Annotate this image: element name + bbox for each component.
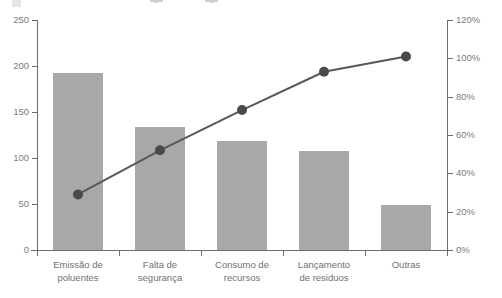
category-axis-tick (365, 251, 366, 256)
bottom-axis-line (31, 250, 453, 251)
bar (217, 141, 267, 250)
legend-item-cumulative (150, 0, 166, 2)
left-axis-tick-label: 200 (1, 61, 29, 71)
bar (135, 127, 185, 250)
bar (381, 205, 431, 250)
category-axis-tick (37, 251, 38, 256)
right-axis-tick (448, 250, 453, 251)
right-axis-tick (448, 58, 453, 59)
category-axis-labels: Emissão depoluentesFalta desegurançaCons… (37, 258, 447, 296)
right-axis-tick-label: 80% (456, 92, 475, 102)
right-axis-tick (448, 135, 453, 136)
category-axis-tick (119, 251, 120, 256)
line-marker-swatch-icon-2 (205, 0, 218, 2)
legend-item-frequency (12, 0, 24, 7)
right-axis-tick-label: 100% (456, 53, 480, 63)
right-axis-tick-label: 0% (456, 245, 470, 255)
right-axis-tick-label: 20% (456, 207, 475, 217)
pareto-chart: 050100150200250 0%20%40%60%80%100%120% E… (0, 0, 502, 298)
left-axis-tick-label: 50 (1, 199, 29, 209)
left-axis-tick-label: 250 (1, 15, 29, 25)
bar-swatch-icon (12, 0, 21, 7)
category-label-line: Outras (358, 258, 454, 271)
left-axis-tick-label: 100 (1, 153, 29, 163)
right-axis-tick (448, 212, 453, 213)
line-marker-swatch-icon (150, 0, 163, 2)
category-label-line: de residuos (276, 271, 372, 284)
right-axis-tick (448, 97, 453, 98)
bar-series (37, 20, 447, 250)
right-axis-tick (448, 173, 453, 174)
category-axis-tick (447, 251, 448, 256)
right-axis-tick (448, 20, 453, 21)
legend-item-target (205, 0, 221, 2)
category-axis-tick (201, 251, 202, 256)
bar (299, 151, 349, 250)
bar (53, 73, 103, 250)
chart-legend (0, 0, 502, 7)
left-axis-tick-label: 0 (1, 245, 29, 255)
right-axis-tick-label: 60% (456, 130, 475, 140)
category-label: Outras (358, 258, 454, 271)
right-axis-tick-label: 120% (456, 15, 480, 25)
left-axis-tick-label: 150 (1, 107, 29, 117)
category-axis-tick (283, 251, 284, 256)
right-axis-tick-label: 40% (456, 168, 475, 178)
